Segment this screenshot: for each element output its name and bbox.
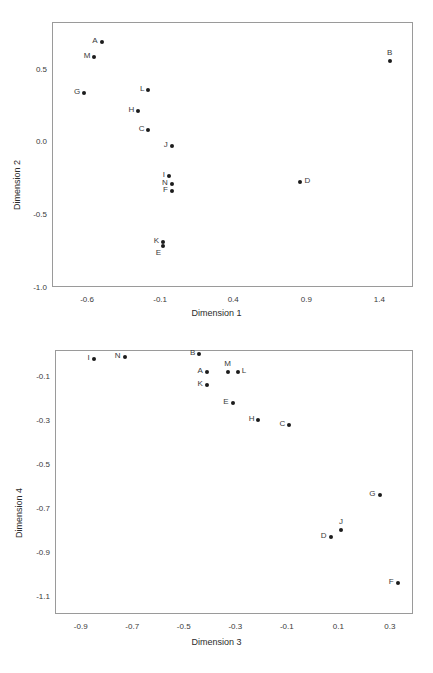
x-tick-label: 0.1	[333, 622, 344, 631]
y-tick-label: 0.5	[22, 64, 47, 73]
x-tick-label: -0.1	[153, 295, 167, 304]
data-point-label-b: B	[190, 349, 195, 357]
y-tick-label: -0.1	[25, 372, 50, 381]
y-tick-label: -0.9	[25, 548, 50, 557]
data-point-label-j: J	[339, 518, 343, 526]
data-point-b	[388, 59, 392, 63]
data-point-label-m: M	[84, 52, 91, 60]
data-point-n	[123, 355, 127, 359]
x-tick-label: -0.3	[228, 622, 242, 631]
data-point-f	[396, 581, 400, 585]
data-point-a	[205, 370, 209, 374]
data-point-label-m: M	[224, 360, 231, 368]
plot-area-top	[52, 22, 413, 287]
data-point-g	[378, 493, 382, 497]
x-tick-label: 1.4	[374, 295, 385, 304]
y-axis-title-bottom: Dimension 4	[14, 488, 24, 538]
y-tick-label: -0.3	[25, 416, 50, 425]
y-tick-label: -1.0	[22, 283, 47, 292]
data-point-label-i: I	[87, 354, 89, 362]
y-tick-label: -1.1	[25, 592, 50, 601]
data-point-f	[170, 189, 174, 193]
data-point-e	[231, 401, 235, 405]
clipped-header-text	[0, 0, 433, 1]
data-point-d	[329, 535, 333, 539]
plot-area-bottom	[55, 350, 413, 614]
x-tick-label: -0.9	[74, 622, 88, 631]
data-point-label-a: A	[92, 37, 97, 45]
data-point-label-n: N	[115, 352, 121, 360]
data-point-label-f: F	[389, 578, 394, 586]
x-tick-label: -0.5	[177, 622, 191, 631]
data-point-label-l: L	[140, 85, 144, 93]
x-tick-label: 0.9	[301, 295, 312, 304]
data-point-label-h: H	[128, 106, 134, 114]
data-point-label-h: H	[249, 415, 255, 423]
data-point-label-g: G	[74, 88, 80, 96]
data-point-n	[170, 182, 174, 186]
data-point-label-k: K	[154, 237, 159, 245]
scatter-figure-dimension3-dimension4: -0.9-0.7-0.5-0.3-0.10.10.3 -0.1-0.3-0.5-…	[0, 333, 433, 673]
x-tick-label: 0.4	[228, 295, 239, 304]
data-point-label-c: C	[280, 420, 286, 428]
data-point-l	[236, 370, 240, 374]
data-point-label-d: D	[321, 532, 327, 540]
data-point-label-a: A	[198, 367, 203, 375]
data-point-label-l: L	[242, 367, 246, 375]
y-tick-label: 0.0	[22, 137, 47, 146]
data-point-label-b: B	[387, 49, 392, 57]
data-point-label-j: J	[164, 141, 168, 149]
x-tick-label: 0.3	[384, 622, 395, 631]
y-tick-label: -0.7	[25, 504, 50, 513]
x-tick-label: -0.7	[125, 622, 139, 631]
x-tick-label: -0.6	[80, 295, 94, 304]
data-point-label-e: E	[223, 398, 228, 406]
scatter-figure-dimension1-dimension2: -0.6-0.10.40.91.4 0.50.0-0.5-1.0 AMBGLHC…	[0, 0, 433, 333]
x-axis-title-top: Dimension 1	[0, 308, 433, 318]
data-point-j	[170, 144, 174, 148]
y-axis-title-top: Dimension 2	[12, 160, 22, 210]
y-tick-label: -0.5	[25, 460, 50, 469]
x-tick-label: -0.1	[280, 622, 294, 631]
x-axis-title-bottom: Dimension 3	[0, 637, 433, 647]
y-tick-label: -0.5	[22, 210, 47, 219]
data-point-label-k: K	[198, 380, 203, 388]
data-point-label-e: E	[156, 249, 161, 257]
data-point-i	[92, 357, 96, 361]
data-point-label-g: G	[369, 490, 375, 498]
data-point-label-f: F	[163, 186, 168, 194]
data-point-label-d: D	[304, 177, 310, 185]
data-point-label-c: C	[139, 125, 145, 133]
data-point-m	[226, 370, 230, 374]
